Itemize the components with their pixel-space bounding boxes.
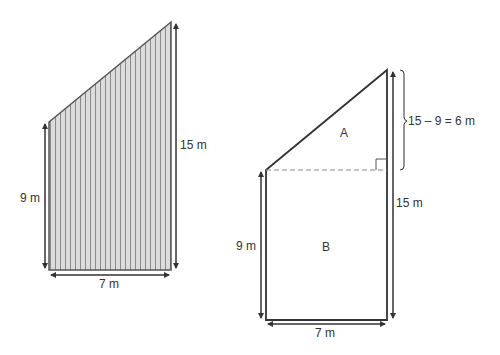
region-a-label: A bbox=[340, 126, 348, 140]
left-dimension-9m: 9 m bbox=[20, 124, 45, 268]
right-dimension-7m: 7 m bbox=[268, 324, 385, 340]
diagram-canvas: 9 m 15 m 7 m A B 9 m 15 m 7 m 15 – 9 = 6… bbox=[0, 0, 500, 355]
triangle-height-label: 15 – 9 = 6 m bbox=[408, 114, 475, 128]
right-dimension-9m: 9 m bbox=[236, 172, 261, 318]
left-dimension-7m: 7 m bbox=[51, 275, 169, 291]
region-b-label: B bbox=[322, 240, 330, 254]
right-angle-marker bbox=[376, 159, 387, 170]
right-trapezium: A B bbox=[266, 70, 387, 320]
left-15m-label: 15 m bbox=[180, 138, 207, 152]
right-15m-label: 15 m bbox=[396, 196, 423, 210]
right-9m-label: 9 m bbox=[236, 239, 256, 253]
left-7m-label: 7 m bbox=[99, 277, 119, 291]
left-dimension-15m: 15 m bbox=[176, 24, 207, 268]
left-9m-label: 9 m bbox=[20, 191, 40, 205]
right-7m-label: 7 m bbox=[315, 326, 335, 340]
left-trapezium bbox=[49, 22, 171, 270]
triangle-height-brace: 15 – 9 = 6 m bbox=[400, 70, 475, 170]
right-dimension-15m: 15 m bbox=[393, 72, 423, 318]
